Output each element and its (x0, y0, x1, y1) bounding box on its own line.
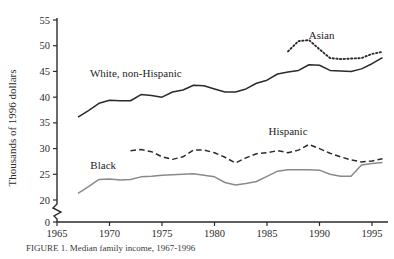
y-tick-label: 40 (40, 92, 51, 103)
x-tick-label: 1980 (204, 228, 225, 239)
x-tick-label: 1985 (257, 228, 278, 239)
series-label: Asian (309, 29, 335, 41)
y-tick-label: 50 (40, 40, 51, 51)
x-axis: 1965197019751980198519901995 (47, 222, 389, 239)
series-label: Black (90, 159, 116, 171)
y-tick-label: 0 (45, 217, 50, 228)
y-tick-label: 35 (40, 117, 51, 128)
x-tick-label: 1965 (47, 228, 68, 239)
series-line (78, 162, 383, 193)
series-labels: White, non-HispanicAsianHispanicBlack (90, 29, 335, 171)
y-tick-label: 55 (40, 15, 51, 26)
x-tick-label: 1990 (309, 228, 330, 239)
y-tick-label: 45 (40, 66, 51, 77)
income-line-chart: 02025303540455055 1965197019751980198519… (0, 0, 394, 259)
series-label: Hispanic (268, 125, 307, 137)
figure-container: 02025303540455055 1965197019751980198519… (0, 0, 394, 259)
series-label: White, non-Hispanic (90, 67, 182, 79)
y-tick-label: 25 (40, 169, 51, 180)
y-tick-label: 20 (40, 195, 51, 206)
x-tick-label: 1970 (99, 228, 120, 239)
y-axis-title: Thousands of 1996 dollars (6, 69, 18, 186)
figure-caption: FIGURE 1. Median family income, 1967-199… (26, 243, 386, 259)
series-lines (78, 40, 383, 193)
series-line (288, 40, 383, 59)
x-tick-label: 1995 (362, 228, 383, 239)
series-line (131, 144, 383, 163)
y-axis: 02025303540455055 (40, 15, 62, 228)
y-tick-label: 30 (40, 143, 51, 154)
x-tick-label: 1975 (152, 228, 173, 239)
